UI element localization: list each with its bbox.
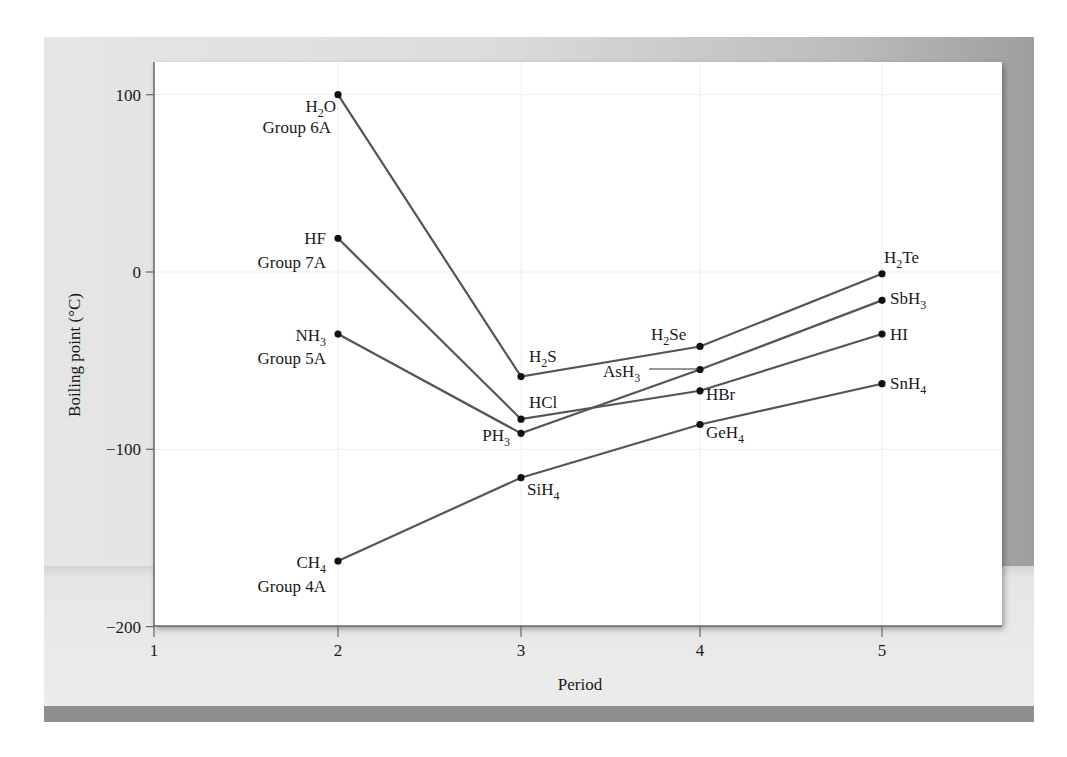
point-label-hbr: HBr	[706, 385, 736, 404]
y-tick-label: −200	[106, 618, 141, 637]
point-labels: H2OHFNH3CH4H2SHClPH3SiH4H2SeAsH3HBrGeH4H…	[295, 97, 926, 576]
group-labels: Group 6AGroup 7AGroup 5AGroup 4A	[258, 118, 332, 596]
group-label: Group 7A	[258, 253, 327, 272]
data-point-marker	[517, 416, 524, 423]
point-label-geh4: GeH4	[706, 423, 744, 446]
group-label: Group 5A	[258, 349, 327, 368]
data-point-marker	[878, 270, 885, 277]
point-label-h2te: H2Te	[884, 248, 919, 271]
data-point-marker	[334, 235, 341, 242]
point-label-snh4: SnH4	[890, 374, 926, 397]
x-axis-ticks: 12345	[150, 626, 887, 660]
y-tick-label: −100	[106, 440, 141, 459]
axes	[154, 62, 1002, 626]
x-tick-label: 2	[334, 641, 343, 660]
x-tick-label: 5	[878, 641, 887, 660]
series-line	[338, 238, 882, 419]
data-point-marker	[878, 380, 885, 387]
x-tick-label: 1	[150, 641, 159, 660]
point-label-sih4: SiH4	[527, 480, 559, 503]
data-point-marker	[878, 330, 885, 337]
series-line	[338, 384, 882, 561]
data-point-marker	[334, 330, 341, 337]
boiling-point-chart: 1000−100−200 12345 Period Boiling point …	[0, 0, 1067, 757]
point-label-h2o: H2O	[305, 97, 336, 120]
series-line	[338, 95, 882, 377]
x-tick-label: 4	[696, 641, 705, 660]
group-label: Group 6A	[263, 118, 332, 137]
data-point-marker	[696, 421, 703, 428]
data-point-marker	[696, 343, 703, 350]
group-label: Group 4A	[258, 577, 327, 596]
y-axis-ticks: 1000−100−200	[106, 86, 154, 637]
data-point-marker	[696, 366, 703, 373]
data-point-marker	[878, 297, 885, 304]
data-point-marker	[517, 474, 524, 481]
y-axis-title: Boiling point (°C)	[65, 293, 84, 417]
point-label-h2s: H2S	[529, 347, 557, 370]
gridlines	[154, 62, 1002, 626]
point-label-ph3: PH3	[482, 426, 510, 449]
point-label-ch4: CH4	[296, 553, 326, 576]
point-label-nh3: NH3	[295, 326, 326, 349]
point-label-sbh3: SbH3	[890, 289, 926, 312]
point-label-hf: HF	[304, 229, 326, 248]
data-point-marker	[517, 430, 524, 437]
point-label-ash3: AsH3	[603, 362, 640, 385]
x-tick-label: 3	[517, 641, 526, 660]
point-label-hcl: HCl	[529, 393, 558, 412]
x-axis-title: Period	[558, 675, 603, 694]
point-label-hi: HI	[890, 325, 908, 344]
data-point-marker	[517, 373, 524, 380]
data-point-marker	[334, 557, 341, 564]
data-point-marker	[696, 387, 703, 394]
data-series	[334, 91, 885, 564]
point-label-h2se: H2Se	[651, 325, 686, 348]
y-tick-label: 0	[133, 263, 142, 282]
y-tick-label: 100	[116, 86, 142, 105]
